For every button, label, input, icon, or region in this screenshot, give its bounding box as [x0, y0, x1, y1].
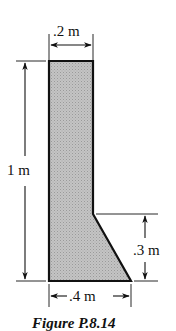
toe-height-label: .3 m — [133, 243, 160, 258]
height-label: 1 m — [7, 163, 30, 178]
base-width-label: .4 m — [69, 289, 96, 304]
top-width-label: .2 m — [53, 24, 80, 39]
wall-section-shape — [49, 61, 131, 281]
figure-caption: Figure P.8.14 — [32, 316, 116, 331]
